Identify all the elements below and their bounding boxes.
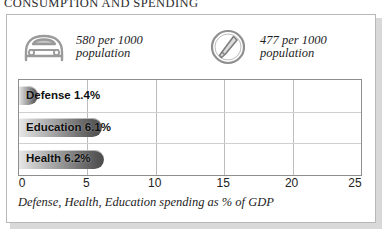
x-tick-label: 0 <box>19 176 26 190</box>
x-tick-label: 15 <box>217 176 230 190</box>
page-title: CONSUMPTION AND SPENDING <box>4 0 198 10</box>
stat-item-phones: 477 per 1000 population <box>191 19 375 75</box>
x-tick-label: 5 <box>83 176 90 190</box>
bar-row <box>19 80 361 112</box>
bar-row <box>19 112 361 144</box>
x-axis: 0510152025 <box>18 176 362 192</box>
x-tick-label: 10 <box>148 176 161 190</box>
stat-value-cars: 580 per 1000 population <box>76 34 143 61</box>
stats-row: 580 per 1000 population 477 per 1000 pop… <box>7 19 375 75</box>
bar-health <box>19 150 104 169</box>
bar-row <box>19 143 361 175</box>
stat-item-cars: 580 per 1000 population <box>7 19 191 75</box>
bar-chart: Defense 1.4%Education 6.1%Health 6.2% <box>18 79 362 176</box>
chart-caption: Defense, Health, Education spending as %… <box>18 195 274 210</box>
car-icon <box>21 27 67 67</box>
x-tick-label: 20 <box>285 176 298 190</box>
x-tick-label: 25 <box>348 176 361 190</box>
stat-card: 580 per 1000 population 477 per 1000 pop… <box>6 14 376 223</box>
stat-value-phones: 477 per 1000 population <box>260 34 327 61</box>
bar-education <box>19 118 102 137</box>
infographic-panel: CONSUMPTION AND SPENDING <box>0 0 388 231</box>
plot-area: Defense 1.4%Education 6.1%Health 6.2% <box>18 79 362 176</box>
mobile-phone-circle-icon <box>205 27 251 67</box>
bar-defense <box>19 86 38 105</box>
